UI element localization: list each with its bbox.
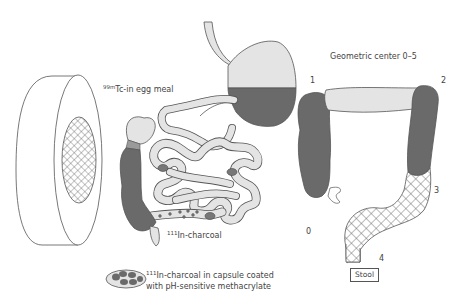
charcoal-label: 111In-charcoal <box>167 232 222 240</box>
region-number-2: 2 <box>441 77 446 85</box>
egg-meal-label: 99mTc-in egg meal <box>103 86 173 94</box>
region-number-0: 0 <box>306 228 311 236</box>
egg-meal-text: Tc-in egg meal <box>115 85 173 94</box>
capsule-text-line1: In-charcoal in capsule coated <box>157 271 274 280</box>
diagram-canvas <box>0 0 460 305</box>
geometric-center-title: Geometric center 0–5 <box>330 53 417 61</box>
capsule-icon <box>158 165 168 172</box>
capsule-icon <box>227 169 237 176</box>
charcoal-text: In-charcoal <box>178 231 222 240</box>
detector-crystal-icon <box>62 117 96 203</box>
gamma-camera-detector <box>16 75 102 245</box>
capsule-text-line2: with pH-sensitive methacrylate <box>146 282 271 291</box>
small-intestine <box>152 142 258 220</box>
capsule-legend-icon <box>106 270 146 288</box>
capsule-legend-line1: 111In-charcoal in capsule coated <box>146 272 274 280</box>
colon-anatomical <box>120 117 159 246</box>
isotope-superscript: 99m <box>103 84 115 90</box>
isotope-superscript: 111 <box>167 230 178 236</box>
isotope-superscript: 111 <box>146 270 157 276</box>
region-number-1: 1 <box>310 77 315 85</box>
colon-schematic <box>298 86 438 263</box>
capsule-legend-line2: with pH-sensitive methacrylate <box>146 283 271 291</box>
appendix <box>328 187 341 203</box>
stool-box: Stool <box>350 268 379 282</box>
capsule-icon <box>205 213 215 220</box>
region-number-4: 4 <box>379 255 384 263</box>
esophagus <box>204 22 236 66</box>
transverse-colon <box>325 88 425 113</box>
stomach <box>200 41 296 126</box>
region-number-3: 3 <box>434 187 439 195</box>
ascending-colon <box>298 92 331 197</box>
